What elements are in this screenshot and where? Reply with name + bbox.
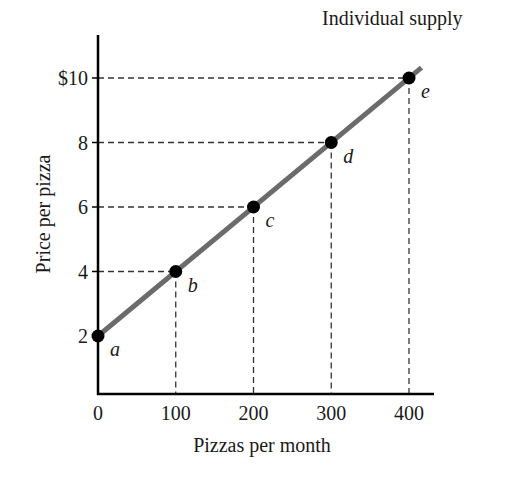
- x-axis-label: Pizzas per month: [193, 434, 331, 457]
- x-tick-label: 400: [394, 402, 424, 424]
- point-label-b: b: [188, 274, 198, 296]
- dashed-guide-lines: [98, 78, 409, 394]
- point-label-a: a: [110, 338, 120, 360]
- supply-curve: [98, 68, 421, 336]
- data-point-d: [325, 136, 338, 149]
- x-tick-labels: 0100200300400: [93, 402, 424, 424]
- x-tick-label: 100: [161, 402, 191, 424]
- y-tick-label: $10: [58, 67, 88, 89]
- point-label-e: e: [421, 80, 430, 102]
- data-point-e: [403, 72, 416, 85]
- y-axis-label: Price per pizza: [32, 154, 55, 273]
- data-point-c: [247, 201, 260, 214]
- point-label-c: c: [266, 209, 275, 231]
- y-tick-label: 6: [78, 196, 88, 218]
- data-point-b: [169, 265, 182, 278]
- x-tick-label: 300: [316, 402, 346, 424]
- x-tick-label: 0: [93, 402, 103, 424]
- supply-chart: abcde 0100200300400 2468$10 Individual s…: [0, 0, 512, 484]
- data-points: abcde: [92, 72, 431, 361]
- y-tick-label: 8: [78, 132, 88, 154]
- point-label-d: d: [343, 145, 354, 167]
- x-tick-label: 200: [239, 402, 269, 424]
- chart-title: Individual supply: [322, 7, 463, 30]
- y-tick-label: 4: [78, 261, 88, 283]
- y-tick-label: 2: [78, 325, 88, 347]
- y-tick-labels: 2468$10: [58, 67, 98, 347]
